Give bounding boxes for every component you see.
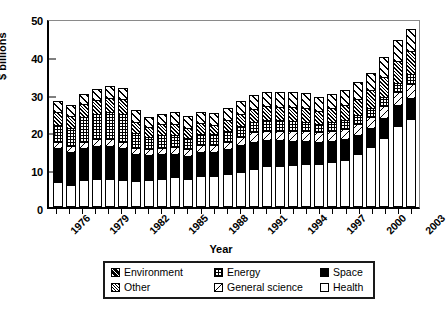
x-axis-title: Year [0,243,442,255]
y-axis-tick-label: 20 [31,128,49,140]
y-axis-tick-mark [49,96,56,97]
bar-segment-health [380,139,388,206]
bar-segment-space [394,106,402,126]
bar-segment-environment [250,96,258,110]
legend-item-health: Health [320,282,383,293]
bar-column [77,21,90,207]
stacked-bar-2000 [366,73,376,207]
bar-segment-health [263,167,271,206]
bar-segment-space [237,146,245,172]
bar-segment-health [367,148,375,206]
stacked-bar-2003 [406,29,416,207]
bar-segment-environment [54,102,62,113]
bar-segment-environment [132,111,140,123]
bar-segment-environment [367,74,375,91]
y-axis-tick-mark [49,172,56,173]
bar-segment-health [302,165,310,206]
bar-segment-other [367,91,375,109]
bar-segment-space [263,141,271,167]
bar-segment-general-science [354,125,362,136]
bar-column [260,21,273,207]
bar-segment-energy [276,121,284,131]
bar-column [182,21,195,207]
bar-segment-environment [407,30,415,52]
bar-segment-space [119,149,127,182]
bar-segment-other [315,112,323,126]
bar-column [378,21,391,207]
legend-label-health: Health [333,282,363,293]
stacked-bar-1989 [223,108,233,207]
stacked-bar-1990 [236,101,246,207]
bar-column [286,21,299,207]
bar-segment-space [210,153,218,176]
bar-column [339,21,352,207]
bar-column [234,21,247,207]
legend-label-space: Space [333,267,363,278]
bar-segment-other [276,108,284,122]
bar-segment-general-science [302,132,310,142]
legend-item-energy: Energy [214,267,320,278]
bar-segment-energy [106,113,114,140]
bar-segment-energy [145,138,153,151]
stacked-bar-1987 [196,112,206,207]
bar-segment-energy [67,129,75,147]
bar-segment-health [54,183,62,206]
bar-segment-energy [224,132,232,143]
bar-column [352,21,365,207]
x-axis-tick-label: 1979 [107,212,131,236]
bar-segment-health [237,173,245,206]
bar-segment-energy [367,109,375,117]
bar-segment-energy [328,123,336,131]
bar-segment-health [276,167,284,206]
bar-column [365,21,378,207]
bar-segment-space [80,149,88,181]
stacked-bar-2001 [379,57,389,207]
stacked-bar-1982 [131,110,141,207]
bar-segment-health [328,163,336,206]
stacked-bar-1997 [327,94,337,207]
bar-segment-space [171,155,179,178]
bar-segment-general-science [394,93,402,106]
bar-segment-energy [315,125,323,133]
bar-column [273,21,286,207]
stacked-bar-1985 [170,112,180,207]
space-solid-swatch [320,268,329,277]
bar-segment-space [341,140,349,160]
bar-segment-environment [80,95,88,106]
stacked-bar-1988 [209,113,219,207]
x-axis-tick-label: 1988 [225,212,249,236]
bar-segment-other [302,109,310,123]
bar-segment-environment [341,91,349,106]
bar-segment-health [354,155,362,206]
bar-segment-space [315,143,323,165]
bar-segment-space [158,155,166,180]
bar-segment-other [224,121,232,132]
bar-segment-other [145,128,153,138]
bar-segment-other [380,78,388,98]
bar-segment-general-science [80,143,88,150]
bar-segment-energy [158,136,166,149]
bar-segment-space [407,99,415,120]
bar-segment-environment [158,115,166,126]
bar-segment-environment [263,93,271,107]
bar-segment-environment [106,87,114,98]
stacked-bar-1980 [105,86,115,207]
other-hatch-swatch [111,283,120,292]
bar-column [129,21,142,207]
bar-segment-health [158,180,166,206]
bar-segment-environment [289,93,297,107]
y-axis-tick-mark [49,58,56,59]
bar-segment-space [67,153,75,186]
bar-segment-energy [197,135,205,146]
bar-segment-other [197,124,205,135]
bar-segment-space [302,142,310,165]
bar-segment-other [106,99,114,113]
bar-segment-health [197,177,205,206]
bar-segment-general-science [341,130,349,141]
bar-segment-other [158,125,166,136]
legend-label-other: Other [124,282,150,293]
x-axis-tick-label: 1982 [146,212,170,236]
bar-segment-other [328,109,336,123]
bar-segment-general-science [250,133,258,142]
bar-column [116,21,129,207]
